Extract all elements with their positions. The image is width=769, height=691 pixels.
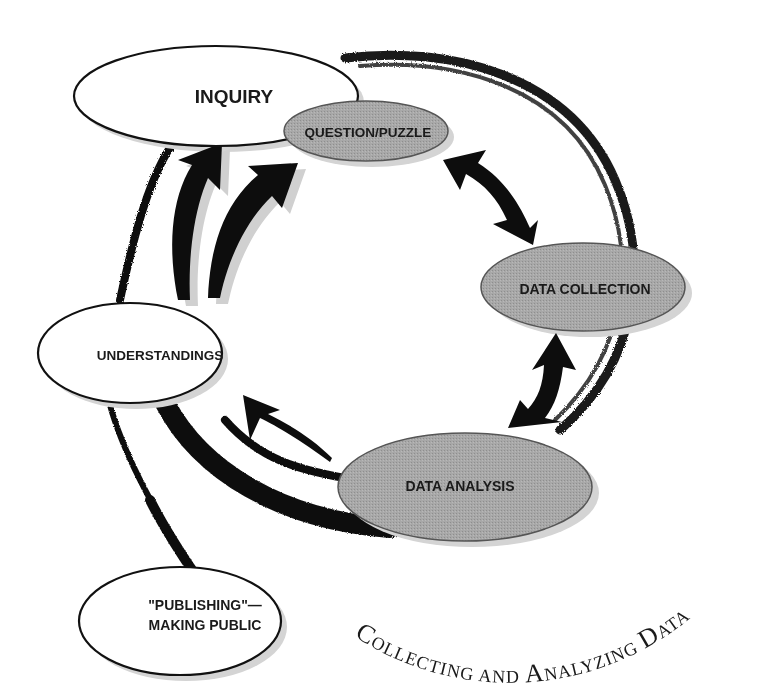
ring-label-part2: NALYZING	[543, 635, 647, 685]
ring-label-part1: OLLECTING AND	[368, 632, 526, 687]
node-data-collection[interactable]: DATA COLLECTION	[481, 243, 685, 331]
arrow-collection-to-analysis-bidirectional	[508, 333, 576, 428]
node-understandings[interactable]: UNDERSTANDINGS	[38, 303, 223, 403]
node-question-puzzle-label: QUESTION/PUZZLE	[305, 125, 432, 140]
node-data-analysis-label: DATA ANALYSIS	[405, 478, 514, 494]
arrow-question-to-collection-bidirectional	[443, 150, 538, 245]
node-publishing[interactable]: "PUBLISHING"— MAKING PUBLIC	[79, 567, 281, 675]
ring-label: COLLECTING AND ANALYZING DATA	[351, 605, 694, 689]
node-publishing-label-line1: "PUBLISHING"—	[148, 597, 262, 613]
node-question-puzzle[interactable]: QUESTION/PUZZLE	[284, 101, 448, 161]
ring-label-cap-a: A	[523, 658, 545, 689]
node-inquiry-label: INQUIRY	[195, 86, 274, 107]
node-publishing-label-line2: MAKING PUBLIC	[149, 617, 262, 633]
cycle-diagram: INQUIRY QUESTION/PUZZLE DATA COLLECTION …	[0, 0, 769, 691]
node-understandings-label: UNDERSTANDINGS	[97, 348, 224, 363]
node-data-collection-label: DATA COLLECTION	[519, 281, 650, 297]
node-data-analysis[interactable]: DATA ANALYSIS	[338, 433, 592, 541]
